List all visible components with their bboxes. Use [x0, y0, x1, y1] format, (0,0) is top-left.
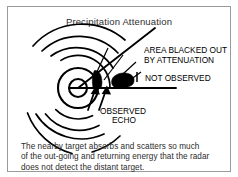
caption-line-2: of the out-going and returning energy th…: [21, 152, 221, 162]
area-blacked-out-label-line2: BY ATTENUATION: [144, 55, 214, 65]
radar-range-arc-5a: [33, 24, 125, 46]
area-blacked-out-label-line1: AREA BLACKED OUT: [144, 45, 227, 55]
precipitation-attenuation-figure: Precipitation Attenuation: [0, 0, 238, 177]
observed-echo-label-line2: ECHO: [112, 115, 137, 125]
observed-echo-target: [92, 70, 102, 87]
radar-range-arc-2b: [56, 110, 93, 119]
not-observed-target: [112, 73, 134, 87]
caption-line-1: The nearby target absorbs and scatters s…: [21, 142, 221, 152]
caption-line-3: does not detect the distant target.: [21, 163, 221, 173]
figure-caption: The nearby target absorbs and scatters s…: [21, 142, 221, 173]
not-observed-label: NOT OBSERVED: [145, 73, 211, 83]
